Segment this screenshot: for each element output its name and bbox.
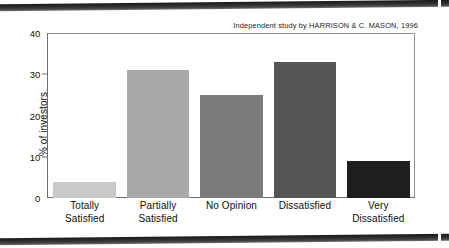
bar [274,62,337,198]
x-axis-label-line: Dissatisfied [333,213,424,226]
scan-artifact-top [0,0,449,11]
bar-series [48,33,415,198]
x-axis-label-line: Very [333,200,424,213]
y-tick-label: 10 [30,151,40,162]
bar [347,161,410,198]
bar [127,70,190,198]
scan-edge-right [438,0,441,248]
y-tick-label: 40 [30,28,40,39]
x-axis-label-line: Satisfied [112,213,203,226]
y-tick-label: 20 [30,110,40,121]
source-annotation: Independent study by HARRISON & C. MASON… [210,21,418,30]
x-axis-label: VeryDissatisfied [333,200,424,225]
bar [53,182,116,199]
y-tick-label: 30 [30,69,40,80]
x-axis-labels: TotallySatisfiedPartiallySatisfiedNo Opi… [48,200,415,244]
bar [200,95,263,198]
